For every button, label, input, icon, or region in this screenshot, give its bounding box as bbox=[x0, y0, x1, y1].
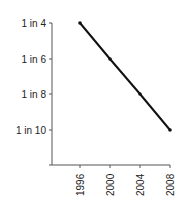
x-tick-label: 2008 bbox=[165, 173, 176, 196]
y-tick-label: 1 in 10 bbox=[16, 125, 46, 136]
x-tick-label: 2004 bbox=[135, 173, 146, 196]
y-tick-labels: 1 in 4 1 in 6 1 in 8 1 in 10 bbox=[16, 18, 46, 136]
line-chart: 1 in 4 1 in 6 1 in 8 1 in 10 1996 2000 2… bbox=[0, 0, 186, 213]
x-tick-labels: 1996 2000 2004 2008 bbox=[75, 173, 176, 196]
y-tick-label: 1 in 8 bbox=[22, 89, 47, 100]
data-point bbox=[138, 92, 142, 96]
data-line bbox=[80, 23, 170, 130]
x-tick-label: 2000 bbox=[105, 173, 116, 196]
data-point bbox=[108, 57, 112, 61]
data-point bbox=[168, 128, 172, 132]
y-tick-label: 1 in 6 bbox=[22, 54, 47, 65]
y-tick-label: 1 in 4 bbox=[22, 18, 47, 29]
x-tick-label: 1996 bbox=[75, 173, 86, 196]
data-point bbox=[78, 21, 82, 25]
